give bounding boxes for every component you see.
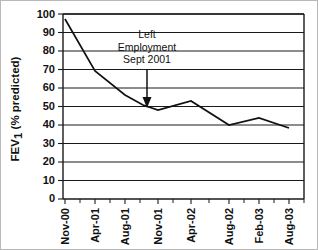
x-tick-label: Aug-02 <box>223 208 235 245</box>
annotation-line-2: Employment <box>118 41 176 53</box>
y-tick-label: 90 <box>43 26 55 38</box>
x-tick-label: Aug-01 <box>119 208 131 245</box>
chart-figure: 100 90 80 70 60 50 40 30 20 10 0 <box>0 0 318 250</box>
y-tick-label: 80 <box>43 44 55 56</box>
y-tick-label: 0 <box>49 192 55 204</box>
y-tick-labels: 100 90 80 70 60 50 40 30 20 10 0 <box>37 8 55 205</box>
annotation-line-1: Left <box>138 28 156 40</box>
fev1-decline-line-chart: 100 90 80 70 60 50 40 30 20 10 0 <box>1 1 318 250</box>
y-tick-label: 20 <box>43 155 55 167</box>
x-tick-label: Apr-02 <box>185 208 197 243</box>
x-tick-labels: Nov-00 Apr-01 Aug-01 Nov-01 Apr-02 Aug-0… <box>59 208 295 245</box>
y-tick-label: 50 <box>43 100 55 112</box>
y-tick-label: 60 <box>43 81 55 93</box>
y-tick-label: 70 <box>43 63 55 75</box>
y-tick-label: 30 <box>43 137 55 149</box>
x-tick-label: Aug-03 <box>283 208 295 245</box>
annotation-line-3: Sept 2001 <box>123 53 171 65</box>
x-tick-label: Apr-01 <box>89 208 101 243</box>
y-tick-label: 10 <box>43 174 55 186</box>
y-axis-title-main: FEV <box>9 139 21 162</box>
y-tick-label: 100 <box>37 8 55 20</box>
y-axis-title-rest: (% predicted) <box>9 56 21 132</box>
svg-text:FEV1 (% predicted): FEV1 (% predicted) <box>9 56 24 161</box>
x-tick-marks <box>65 199 304 204</box>
x-tick-label: Nov-00 <box>59 208 71 245</box>
y-tick-label: 40 <box>43 118 55 130</box>
x-tick-label: Feb-03 <box>253 208 265 243</box>
x-tick-label: Nov-01 <box>152 208 164 245</box>
y-axis-title: FEV1 (% predicted) <box>9 56 24 161</box>
y-tick-marks <box>58 14 63 199</box>
